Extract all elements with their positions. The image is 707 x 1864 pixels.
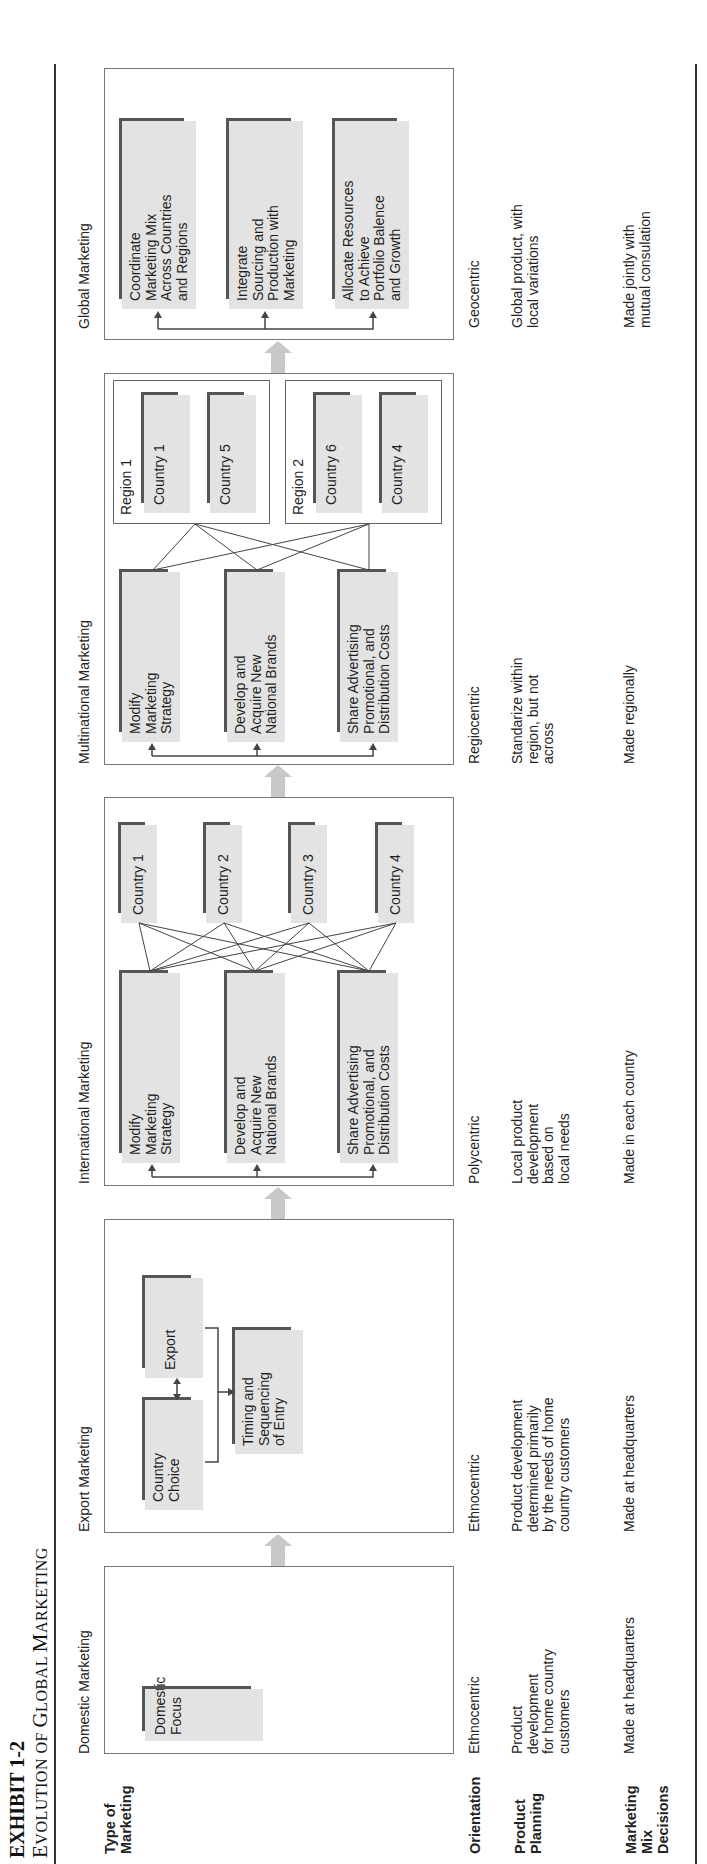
stage-title-domestic: Domestic Marketing <box>76 1630 92 1754</box>
box-timing-sequencing-entry: Timing andSequencingof Entry <box>235 1330 303 1454</box>
planning-global: Global product, withlocal variations <box>510 204 541 328</box>
mix-global: Made jointly withmutual consulation <box>622 211 653 328</box>
planning-export: Product developmentdetermined primarilyb… <box>510 1397 572 1532</box>
exhibit-number: EXHIBIT 1-2 <box>6 1741 29 1858</box>
box-intl-country-1: Country 1 <box>121 825 157 923</box>
top-rule <box>54 64 56 1864</box>
box-mn-country-6: Country 6 <box>316 395 362 513</box>
box-integrate-sourcing: IntegrateSourcing andProduction withMark… <box>229 121 303 309</box>
box-intl-country-4: Country 4 <box>378 825 414 923</box>
region-2-box: Region 2 Country 6 Country 4 <box>285 380 442 524</box>
orientation-domestic: Ethnocentric <box>467 1676 483 1754</box>
box-mn-develop-brands: Develop andAcquire NewNational Brands <box>227 572 285 742</box>
stage-title-export: Export Marketing <box>76 1426 92 1532</box>
region-1-label: Region 1 <box>118 459 134 515</box>
box-export: Export <box>145 1278 203 1378</box>
box-country-choice: CountryChoice <box>145 1400 203 1510</box>
mix-multinational: Made regionally <box>622 665 638 764</box>
box-mn-country-4: Country 4 <box>382 395 428 513</box>
box-intl-develop-brands: Develop andAcquire NewNational Brands <box>227 973 285 1163</box>
planning-international: Local productdevelopmentbased onlocal ne… <box>510 1100 572 1184</box>
box-domestic-focus: DomesticFocus <box>145 1689 263 1741</box>
orientation-global: Geocentric <box>467 260 483 328</box>
mix-international: Made in each country <box>622 1050 638 1184</box>
panel-domestic: DomesticFocus <box>104 1566 454 1754</box>
box-intl-country-3: Country 3 <box>291 825 327 923</box>
box-coordinate-marketing-mix: CoordinateMarketing MixAcross Countriesa… <box>122 121 196 309</box>
row-label-orientation: Orientation <box>467 1777 483 1854</box>
box-mn-country-1: Country 1 <box>144 395 190 513</box>
orientation-export: Ethnocentric <box>467 1454 483 1532</box>
stage-title-international: International Marketing <box>76 1042 92 1184</box>
planning-multinational: Standarize withinregion, but notacross <box>510 657 557 764</box>
row-label-type-of-marketing: Type ofMarketing <box>102 1786 134 1855</box>
panel-international: ModifyMarketingStrategy Develop andAcqui… <box>104 797 454 1186</box>
box-intl-country-2: Country 2 <box>206 825 242 923</box>
orientation-multinational: Regiocentric <box>467 686 483 764</box>
panel-export: CountryChoice Export Timing andSequencin… <box>104 1219 454 1533</box>
orientation-international-text: Polycentric <box>467 1116 483 1184</box>
panel-multinational: ModifyMarketingStrategy Develop andAcqui… <box>104 373 454 765</box>
stage-title-global: Global Marketing <box>76 223 92 329</box>
box-mn-country-5: Country 5 <box>210 395 256 513</box>
box-intl-modify-strategy: ModifyMarketingStrategy <box>122 973 180 1163</box>
region-1-box: Region 1 Country 1 Country 5 <box>113 380 270 524</box>
stage-title-multinational: Multinational Marketing <box>76 620 92 764</box>
bottom-rule <box>695 64 697 1864</box>
exhibit-diagram: EXHIBIT 1-2 EVOLUTION OF GLOBAL MARKETIN… <box>0 0 707 1864</box>
box-mn-share-costs: Share AdvertisingPromotional, andDistrib… <box>340 572 398 742</box>
planning-domestic: Productdevelopmentfor home countrycustom… <box>510 1649 572 1754</box>
box-intl-share-costs: Share AdvertisingPromotional, andDistrib… <box>340 973 398 1163</box>
mix-domestic: Made at headquarters <box>622 1617 638 1754</box>
row-label-product-planning: ProductPlanning <box>512 1793 544 1854</box>
box-mn-modify-strategy: ModifyMarketingStrategy <box>122 572 180 742</box>
mix-export: Made at headquarters <box>622 1395 638 1532</box>
exhibit-title: EVOLUTION OF GLOBAL MARKETING <box>28 1547 53 1858</box>
region-2-label: Region 2 <box>290 459 306 515</box>
box-allocate-resources: Allocate Resourcesto AchievePortfolio Ba… <box>335 121 409 309</box>
row-label-marketing-mix-decisions: MarketingMixDecisions <box>623 1786 671 1855</box>
panel-global: CoordinateMarketing MixAcross Countriesa… <box>104 68 454 340</box>
